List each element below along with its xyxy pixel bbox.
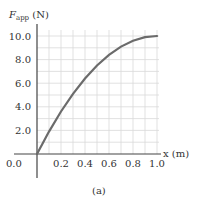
x-tick-label: 1.0 <box>149 158 165 169</box>
axes <box>14 24 161 178</box>
x-tick-label: 0.8 <box>125 158 141 169</box>
force-displacement-chart: 2.04.06.08.010.0 0.20.40.60.81.0 0.0 Fap… <box>0 0 200 204</box>
x-tick-label: 0.2 <box>53 158 69 169</box>
y-tick-label: 4.0 <box>15 101 31 112</box>
y-tick-label: 8.0 <box>15 54 31 65</box>
origin-label: 0.0 <box>6 158 22 169</box>
x-tick-labels: 0.20.40.60.81.0 <box>53 158 165 169</box>
y-tick-labels: 2.04.06.08.010.0 <box>9 31 31 136</box>
x-tick-label: 0.4 <box>77 158 93 169</box>
figure-caption: (a) <box>92 185 106 196</box>
x-tick-label: 0.6 <box>101 158 117 169</box>
y-axis-label: Fapp (N) <box>8 9 49 22</box>
y-tick-label: 10.0 <box>9 31 31 42</box>
grid-lines <box>37 30 159 154</box>
y-tick-label: 6.0 <box>15 78 31 89</box>
y-tick-label: 2.0 <box>15 125 31 136</box>
x-axis-label: x (m) <box>163 148 189 159</box>
